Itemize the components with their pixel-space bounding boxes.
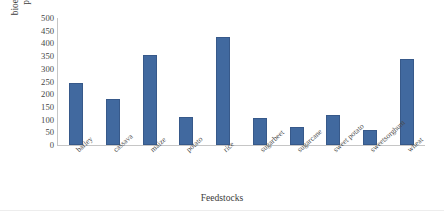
x-axis-title: Feedstocks	[0, 192, 444, 203]
y-axis-tick-label: 350	[30, 52, 54, 61]
x-tick-slot: maize	[131, 146, 168, 186]
y-axis-tick-label: 400	[30, 39, 54, 48]
x-tick-slot: barley	[58, 146, 95, 186]
bar	[143, 55, 157, 145]
bar-slot	[205, 18, 242, 145]
x-axis-tick-labels: barleycassavamaizepotatoricesugarbeetsug…	[58, 146, 425, 186]
y-axis-title-line-2: potential (L/ton)	[21, 0, 33, 5]
y-axis-tick-label: 200	[30, 90, 54, 99]
bar-chart-figure: bioethanol production potential (L/ton) …	[0, 0, 444, 219]
y-axis-tick-label: 150	[30, 102, 54, 111]
bar	[216, 37, 230, 145]
y-axis-tick-label: 500	[30, 14, 54, 23]
y-axis-tick-label: 300	[30, 64, 54, 73]
bar-slot	[95, 18, 132, 145]
bar-slot	[315, 18, 352, 145]
x-tick-slot: wheat	[388, 146, 425, 186]
x-tick-slot: potato	[168, 146, 205, 186]
y-axis-tick-label: 250	[30, 77, 54, 86]
x-tick-slot: sweetsorghum	[352, 146, 389, 186]
plot-area	[57, 18, 425, 145]
bar	[106, 99, 120, 145]
x-tick-slot: sweet potato	[315, 146, 352, 186]
y-axis-title-line-1: bioethanol production	[10, 0, 22, 15]
bar-slot	[58, 18, 95, 145]
bar-slot	[242, 18, 279, 145]
y-axis-tick-label: 100	[30, 115, 54, 124]
x-tick-slot: cassava	[95, 146, 132, 186]
y-axis-tick-label: 450	[30, 26, 54, 35]
y-axis-tick-label: 50	[30, 128, 54, 137]
x-tick-slot: rice	[205, 146, 242, 186]
bar	[69, 83, 83, 145]
bar	[400, 59, 414, 145]
y-axis-tick-label: 0	[30, 141, 54, 150]
footer-divider	[0, 210, 444, 211]
bar-slot	[131, 18, 168, 145]
x-tick-slot: sugarbeet	[242, 146, 279, 186]
bar-series	[58, 18, 425, 145]
x-tick-slot: sugarcane	[278, 146, 315, 186]
bar-slot	[168, 18, 205, 145]
bar-slot	[278, 18, 315, 145]
y-axis-tick-labels: 500450400350300250200150100500	[30, 13, 54, 147]
